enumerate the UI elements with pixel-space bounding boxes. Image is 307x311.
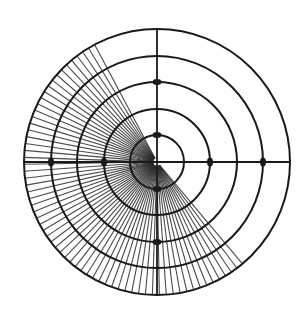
crosshair-axes [24, 29, 290, 295]
marker-dot [153, 79, 162, 85]
marker-dot [48, 158, 54, 167]
hatch-line [52, 80, 154, 159]
diagram-canvas [0, 0, 307, 311]
marker-dot [153, 239, 162, 245]
marker-dot [101, 158, 107, 167]
hatch-line [75, 165, 154, 267]
hatch-line [77, 56, 155, 159]
marker-dot [207, 158, 213, 167]
marker-dot [153, 132, 162, 138]
hatch-line [51, 164, 154, 242]
hatch-line [159, 165, 237, 268]
polar-diagram [0, 0, 307, 311]
marker-dot [260, 158, 266, 167]
marker-dot [153, 186, 162, 192]
